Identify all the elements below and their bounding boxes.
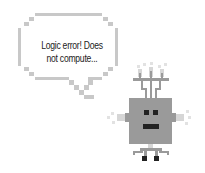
speech-line-1: Logic error! Does — [36, 39, 108, 52]
speech-bubble-text: Logic error! Does not compute... — [36, 39, 108, 65]
speech-line-2: not compute... — [36, 52, 108, 65]
